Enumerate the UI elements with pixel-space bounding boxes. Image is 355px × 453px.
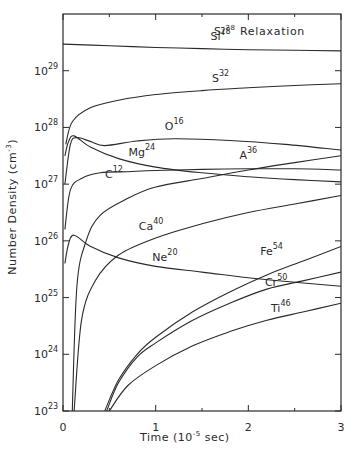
label-fe54: Fe54 bbox=[260, 242, 283, 258]
label-ti46: Ti46 bbox=[270, 299, 291, 315]
y-tick-label: 1028 bbox=[34, 118, 58, 134]
y-tick-label: 1024 bbox=[34, 345, 58, 361]
label-o16: O16 bbox=[165, 117, 184, 133]
label-ne20: Ne20 bbox=[152, 248, 177, 264]
plot-frame bbox=[63, 14, 341, 411]
curve-ti46 bbox=[109, 303, 341, 411]
data-curves bbox=[63, 44, 341, 411]
axis-tick-labels: 01231023102410251026102710281029 bbox=[34, 62, 345, 434]
curve-s32 bbox=[66, 84, 341, 145]
curve-ne20 bbox=[65, 235, 341, 286]
label-c12: C12 bbox=[105, 165, 123, 181]
label-s32: S32 bbox=[212, 69, 229, 85]
x-tick-label: 3 bbox=[338, 421, 345, 434]
y-tick-label: 1027 bbox=[34, 175, 58, 191]
axis-ticks bbox=[63, 14, 341, 411]
y-tick-label: 1026 bbox=[34, 232, 58, 248]
x-tick-label: 0 bbox=[60, 421, 67, 434]
curve-fe54 bbox=[105, 247, 341, 412]
chart-canvas: 01231023102410251026102710281029 Si28S32… bbox=[0, 0, 355, 453]
y-axis-label: Number Density (cm-3) bbox=[5, 127, 19, 287]
x-tick-label: 2 bbox=[245, 421, 252, 434]
label-cr50: Cr50 bbox=[265, 273, 287, 289]
label-mg24: Mg24 bbox=[128, 143, 155, 159]
x-axis-label: Time (10-5 sec) bbox=[140, 430, 230, 444]
curve-si28 bbox=[63, 44, 341, 51]
y-tick-label: 1029 bbox=[34, 62, 58, 78]
y-tick-label: 1025 bbox=[34, 289, 58, 305]
label-ca40: Ca40 bbox=[139, 217, 164, 233]
label-a36: A36 bbox=[239, 146, 257, 162]
chart-title: Si28 Relaxation bbox=[214, 24, 305, 38]
curve-a36 bbox=[72, 156, 341, 411]
curve-cr50 bbox=[107, 272, 341, 411]
y-tick-label: 1023 bbox=[34, 402, 58, 418]
